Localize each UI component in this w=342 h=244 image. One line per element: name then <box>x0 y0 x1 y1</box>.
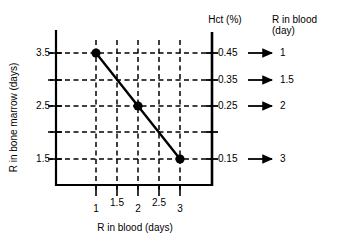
horizontal-gridlines <box>48 53 212 159</box>
x-axis-title: R in blood (days) <box>60 222 210 233</box>
x-tick-label-2: 2 <box>128 203 148 214</box>
x-tick-label-3: 3 <box>170 203 190 214</box>
data-point-1 <box>91 48 100 57</box>
hct-tick-label-0p15: 0.15 <box>218 153 248 164</box>
nomogram-figure: R in bone marrow (days) R in blood (days… <box>0 0 342 244</box>
y-axis-title: R in bone marrow (days) <box>8 43 19 193</box>
r-in-blood-value-3: 3 <box>280 153 304 164</box>
y-tick-label-1p5: 1.5 <box>24 153 50 164</box>
hct-tick-label-0p35: 0.35 <box>218 74 248 85</box>
r-in-blood-value-1p5: 1.5 <box>280 74 304 85</box>
r-in-blood-header-line1: R in blood <box>272 14 317 25</box>
x-tick-label-1: 1 <box>86 203 106 214</box>
data-point-2 <box>133 101 142 110</box>
y-tick-label-2p5: 2.5 <box>24 100 50 111</box>
hct-tick-label-0p45: 0.45 <box>218 47 248 58</box>
r-in-blood-mapping-header: R in blood (day) <box>272 14 342 36</box>
r-in-blood-header-line2: (day) <box>272 25 342 36</box>
r-in-blood-value-2: 2 <box>280 100 304 111</box>
hct-axis-header: Hct (%) <box>196 14 254 25</box>
vertical-gridlines <box>96 40 180 193</box>
y-tick-label-3p5: 3.5 <box>24 47 50 58</box>
hct-tick-label-0p25: 0.25 <box>218 100 248 111</box>
mapping-arrows <box>248 53 272 159</box>
x-tick-label-2p5: 2.5 <box>149 197 169 208</box>
data-point-3 <box>175 154 184 163</box>
x-axis-ticks <box>96 186 180 196</box>
r-in-blood-value-1: 1 <box>280 47 304 58</box>
x-tick-label-1p5: 1.5 <box>107 197 127 208</box>
